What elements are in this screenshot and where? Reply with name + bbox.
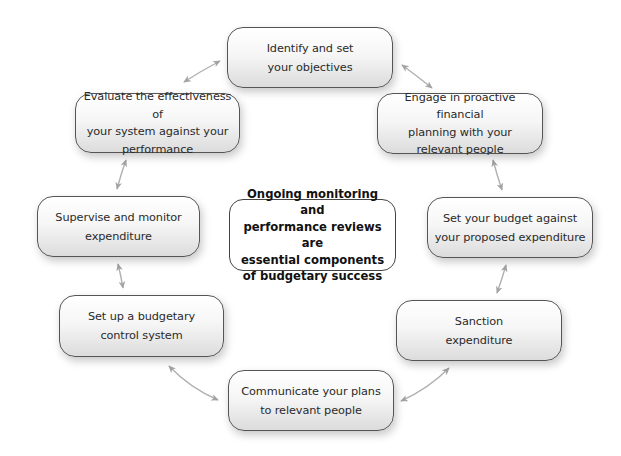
step-setup-control-system: Set up a budgetary control system: [59, 295, 224, 357]
step-label-line: Set your budget against: [435, 209, 586, 228]
step-label-line: control system: [88, 326, 195, 345]
arrow-setbudget-sanction: [497, 265, 506, 293]
step-label-line: your proposed expenditure: [435, 228, 586, 247]
center-statement: Ongoing monitoring and performance revie…: [229, 199, 396, 271]
arrow-supervise-evaluate: [117, 160, 126, 189]
arrow-setup-supervise: [118, 264, 123, 288]
step-communicate-plans: Communicate your plans to relevant peopl…: [228, 370, 394, 431]
center-label-line: Ongoing monitoring and: [234, 186, 391, 219]
arrow-communicate-setup: [169, 366, 218, 400]
center-label-line: performance reviews are: [234, 219, 391, 252]
arrow-engage-setbudget: [493, 160, 502, 190]
step-label-line: relevant people: [384, 141, 536, 159]
step-label-line: expenditure: [446, 331, 513, 350]
step-set-budget: Set your budget against your proposed ex…: [427, 197, 593, 258]
arrow-sanction-communicate: [401, 368, 449, 401]
step-label-line: your objectives: [267, 58, 354, 77]
step-label-line: to relevant people: [241, 401, 380, 420]
step-supervise-monitor: Supervise and monitor expenditure: [37, 196, 200, 257]
step-label-line: performance: [82, 141, 233, 159]
step-label-line: planning with your: [384, 124, 536, 142]
step-label-line: Identify and set: [267, 39, 354, 58]
center-label-line: of budgetary success: [234, 268, 391, 285]
step-evaluate-effectiveness: Evaluate the effectiveness of your syste…: [75, 93, 240, 153]
step-label-line: Supervise and monitor: [55, 208, 181, 227]
step-label-line: Communicate your plans: [241, 382, 380, 401]
arrow-evaluate-identify: [184, 61, 220, 82]
step-label-line: Engage in proactive financial: [384, 89, 536, 124]
step-label-line: Set up a budgetary: [88, 307, 195, 326]
step-sanction-expenditure: Sanction expenditure: [396, 300, 562, 361]
step-label-line: Evaluate the effectiveness of: [82, 88, 233, 123]
step-engage-planning: Engage in proactive financial planning w…: [377, 93, 543, 154]
step-label-line: your system against your: [82, 123, 233, 141]
center-label-line: essential components: [234, 252, 391, 269]
step-label-line: expenditure: [55, 227, 181, 246]
step-identify-objectives: Identify and set your objectives: [227, 27, 393, 88]
step-label-line: Sanction: [446, 312, 513, 331]
arrow-identify-engage: [402, 65, 432, 88]
